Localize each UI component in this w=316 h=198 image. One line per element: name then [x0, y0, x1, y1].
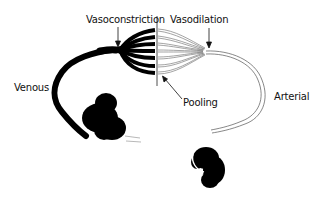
arterial-heart-icon: [191, 147, 225, 188]
label-vasodilation: Vasodilation: [170, 14, 228, 26]
label-arterial: Arterial: [274, 91, 309, 103]
label-venous: Venous: [14, 82, 49, 94]
arterial-vessel: [206, 51, 265, 133]
label-pooling: Pooling: [183, 97, 218, 109]
venous-heart-icon: [82, 93, 141, 142]
arterial-capillaries: [158, 29, 205, 74]
label-vasoconstriction: Vasoconstriction: [86, 14, 165, 26]
circulation-diagram: Vasoconstriction Vasodilation Venous Art…: [0, 0, 316, 198]
diagram-graphic: [0, 0, 316, 198]
